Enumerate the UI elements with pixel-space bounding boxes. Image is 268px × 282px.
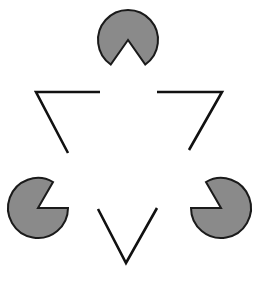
kanizsa-svg	[0, 0, 268, 282]
line-corner-upper-left	[36, 92, 100, 153]
pacman-top	[98, 10, 158, 65]
kanizsa-figure: Kanizsa triangle illusion	[0, 0, 268, 282]
pacman-bottom-right	[191, 178, 251, 238]
line-corner-bottom	[98, 208, 157, 263]
line-corner-upper-right	[157, 92, 222, 150]
pacman-bottom-left	[8, 178, 68, 238]
